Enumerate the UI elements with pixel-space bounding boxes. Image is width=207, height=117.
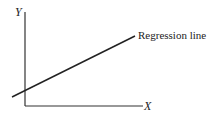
x-axis-label: X <box>143 99 152 113</box>
regression-line-label: Regression line <box>138 29 206 41</box>
regression-diagram: Y X Regression line <box>0 0 207 117</box>
regression-line <box>12 36 135 97</box>
y-axis-label: Y <box>15 5 23 19</box>
